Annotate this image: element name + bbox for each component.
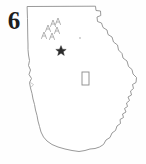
figure-page: 6 [0,0,146,164]
faint-dot-mark [79,37,81,39]
figure-number-label: 6 [2,6,26,36]
